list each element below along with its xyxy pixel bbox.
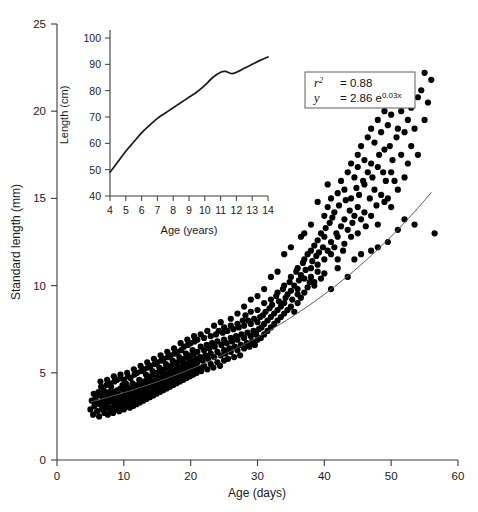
data-point [316, 249, 322, 255]
data-point [252, 342, 258, 348]
x-tick-label: 30 [251, 470, 264, 482]
data-point [347, 208, 353, 214]
inset-growth-curve [110, 57, 268, 172]
data-point [432, 230, 438, 236]
data-point [351, 256, 357, 262]
data-point [365, 169, 371, 175]
data-point [289, 296, 295, 302]
data-point [157, 352, 163, 358]
data-point [248, 296, 254, 302]
data-point [388, 204, 394, 210]
data-point [361, 181, 367, 187]
data-point [281, 283, 287, 289]
data-point [335, 234, 341, 240]
y-tick-label: 25 [33, 18, 46, 30]
data-point [425, 99, 431, 105]
data-point [338, 178, 344, 184]
data-point [198, 331, 204, 337]
data-point [171, 345, 177, 351]
data-point [261, 286, 267, 292]
data-point [375, 117, 381, 123]
data-point [385, 195, 391, 201]
data-point [236, 324, 242, 330]
data-point [178, 340, 184, 346]
inset-y-tick-label: 60 [89, 137, 101, 149]
data-point [401, 129, 407, 135]
data-point [191, 333, 197, 339]
inset-x-tick-label: 12 [231, 204, 243, 216]
data-point [248, 309, 254, 315]
data-point [288, 303, 294, 309]
data-point [338, 223, 344, 229]
data-point [230, 326, 236, 332]
data-point [131, 366, 137, 372]
data-point [234, 310, 240, 316]
data-point [361, 157, 367, 163]
y-tick-label: 0 [40, 454, 46, 466]
data-point [421, 70, 427, 76]
data-point [288, 244, 294, 250]
data-point [201, 347, 207, 353]
data-point [358, 251, 364, 257]
data-point [393, 134, 399, 140]
inset-x-tick-label: 13 [246, 204, 258, 216]
data-point [91, 391, 97, 397]
data-point [184, 337, 190, 343]
data-point [144, 359, 150, 365]
data-point [295, 265, 301, 271]
data-point [204, 366, 210, 372]
data-point [321, 234, 327, 240]
data-point [325, 181, 331, 187]
data-point [348, 234, 354, 240]
data-point [96, 413, 102, 419]
data-point [295, 291, 301, 297]
x-tick-label: 0 [54, 470, 60, 482]
inset-y-ticks: 405060708090100 [83, 32, 110, 202]
data-point [246, 344, 252, 350]
data-point [248, 321, 254, 327]
data-point [395, 187, 401, 193]
data-point [108, 384, 114, 390]
data-point [368, 248, 374, 254]
main-y-ticks: 0510152025 [33, 18, 57, 466]
data-point [328, 239, 334, 245]
data-point [328, 251, 334, 257]
inset-x-tick-label: 14 [262, 204, 274, 216]
data-point [311, 242, 317, 248]
data-point [217, 363, 223, 369]
data-point [308, 265, 314, 271]
data-point [345, 227, 351, 233]
data-point [378, 129, 384, 135]
data-point [211, 323, 217, 329]
data-point [376, 152, 382, 158]
data-point [204, 328, 210, 334]
data-point [242, 312, 248, 318]
data-point [241, 303, 247, 309]
inset-y-axis-title: Length (cm) [58, 86, 70, 145]
data-point [97, 378, 103, 384]
data-point [229, 338, 235, 344]
inset-x-tick-label: 5 [123, 204, 129, 216]
data-point [228, 316, 234, 322]
data-point [237, 352, 243, 358]
inset-y-tick-label: 100 [83, 32, 101, 44]
data-point [321, 256, 327, 262]
data-point [224, 340, 230, 346]
data-point [303, 267, 309, 273]
data-point [375, 221, 381, 227]
data-point [428, 77, 434, 83]
inset-x-tick-label: 4 [107, 204, 113, 216]
data-point [151, 356, 157, 362]
data-point [345, 169, 351, 175]
inset-x-tick-label: 6 [139, 204, 145, 216]
data-point [358, 216, 364, 222]
x-tick-label: 50 [385, 470, 398, 482]
data-point [355, 230, 361, 236]
data-point [240, 317, 246, 323]
data-point [341, 241, 347, 247]
x-tick-label: 40 [318, 470, 331, 482]
data-point [309, 258, 315, 264]
data-point [269, 302, 275, 308]
y-tick-label: 5 [40, 367, 46, 379]
data-point [321, 270, 327, 276]
